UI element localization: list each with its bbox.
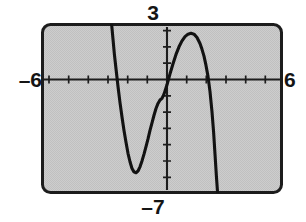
y-max-label: 3: [0, 2, 306, 23]
graphing-calculator-figure: 3 –7 –6 6: [0, 0, 306, 222]
y-min-label: –7: [0, 196, 306, 217]
calculator-screen-svg: [0, 0, 306, 222]
x-max-label: 6: [284, 69, 306, 90]
x-min-label: –6: [8, 69, 42, 90]
calculator-screen-background: [42, 24, 282, 193]
